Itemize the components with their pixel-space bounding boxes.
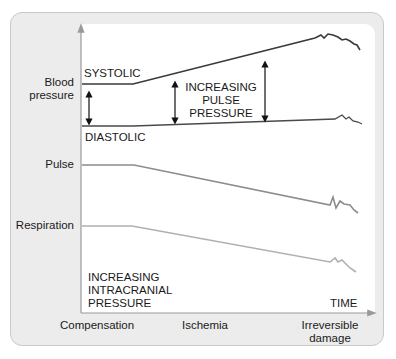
icp-line-1: INCREASING	[88, 271, 172, 284]
y-label-blood-pressure: Blood pressure	[29, 76, 74, 102]
phase-compensation: Compensation	[60, 319, 134, 332]
annotation-line-3: PRESSURE	[182, 107, 260, 120]
icp-label: INCREASING INTRACRANIAL PRESSURE	[88, 271, 172, 310]
phase-irreversible-line-1: Irreversible	[290, 319, 370, 332]
pulse-line	[82, 165, 358, 213]
phase-ischemia: Ischemia	[182, 319, 228, 332]
systolic-label: SYSTOLIC	[84, 67, 141, 80]
phase-irreversible-damage: Irreversible damage	[290, 319, 370, 345]
y-label-respiration: Respiration	[16, 219, 74, 232]
time-axis-label: TIME	[330, 297, 357, 310]
y-label-pulse: Pulse	[45, 158, 74, 171]
annotation-line-1: INCREASING	[182, 81, 260, 94]
y-label-pressure: pressure	[29, 89, 74, 102]
icp-line-2: INTRACRANIAL	[88, 284, 172, 297]
diastolic-label: DIASTOLIC	[85, 131, 146, 144]
pulse-pressure-annotation: INCREASING PULSE PRESSURE	[182, 81, 260, 120]
y-label-blood: Blood	[29, 76, 74, 89]
icp-line-3: PRESSURE	[88, 297, 172, 310]
phase-irreversible-line-2: damage	[290, 332, 370, 345]
respiration-line	[82, 226, 356, 272]
annotation-line-2: PULSE	[182, 94, 260, 107]
